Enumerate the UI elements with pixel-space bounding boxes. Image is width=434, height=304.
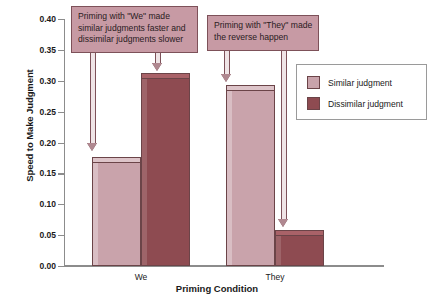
legend-item-dissimilar: Dissimilar judgment — [307, 93, 426, 114]
y-tick-label-6: 0.30 — [39, 76, 56, 86]
bar-they-dissimilar-judgment — [275, 230, 324, 266]
callout-we: Priming with "We" made similar judgments… — [71, 6, 198, 53]
arrow-shaft-we-dissimilar — [155, 53, 161, 63]
y-tick-label-5: 0.25 — [39, 107, 56, 117]
callout-we-line-1: Priming with "We" made — [78, 11, 191, 23]
y-tick-label-7: 0.35 — [39, 45, 56, 55]
x-tick-label-we: We — [135, 272, 148, 282]
callout-they: Priming with "They" made the reverse hap… — [207, 15, 319, 51]
arrow-head-we-similar — [87, 143, 97, 151]
bar-we-similar-judgment — [92, 157, 141, 266]
callout-they-line-1: Priming with "They" made — [214, 20, 312, 32]
y-axis-title: Speed to Make Judgment — [24, 46, 35, 206]
callout-we-line-3: dissimilar judgments slower — [78, 34, 191, 46]
arrow-shaft-they-similar — [224, 51, 230, 74]
y-tick-label-3: 0.15 — [39, 168, 56, 178]
bar-we-dissimilar-judgment — [141, 73, 190, 266]
arrow-shaft-we-similar — [90, 53, 96, 143]
bar-front-face — [92, 162, 141, 266]
legend-label-dissimilar: Dissimilar judgment — [328, 99, 403, 109]
x-axis-title: Priming Condition — [0, 283, 434, 294]
y-tick-label-8: 0.40 — [39, 14, 56, 24]
bar-front-face — [226, 90, 275, 266]
arrow-head-they-similar — [221, 74, 231, 82]
x-tick-label-they: They — [266, 272, 285, 282]
bar-highlight — [142, 79, 147, 265]
bar-they-similar-judgment — [226, 85, 275, 266]
legend-swatch-dissimilar-icon — [307, 97, 320, 110]
bar-front-face — [275, 235, 324, 266]
legend-item-similar: Similar judgment — [307, 72, 426, 93]
arrow-head-they-dissimilar — [278, 219, 288, 227]
arrow-head-we-dissimilar — [152, 63, 162, 71]
y-tick-label-1: 0.05 — [39, 230, 56, 240]
bar-highlight — [276, 236, 281, 265]
y-tick-label-0: 0.00 — [39, 261, 56, 271]
y-tick-label-2: 0.10 — [39, 199, 56, 209]
bar-highlight — [93, 163, 98, 265]
bar-highlight — [227, 91, 232, 265]
legend-label-similar: Similar judgment — [328, 78, 392, 88]
y-axis-line — [64, 19, 65, 266]
bar-front-face — [141, 78, 190, 266]
legend-swatch-similar-icon — [307, 76, 320, 89]
y-tick-label-4: 0.20 — [39, 138, 56, 148]
bar-chart-figure: Speed to Make Judgment Priming Condition… — [0, 0, 434, 304]
callout-we-line-2: similar judgments faster and — [78, 23, 191, 35]
chart-legend: Similar judgment Dissimilar judgment — [296, 64, 427, 120]
arrow-shaft-they-dissimilar — [281, 51, 287, 219]
callout-they-line-2: the reverse happen — [214, 32, 312, 44]
